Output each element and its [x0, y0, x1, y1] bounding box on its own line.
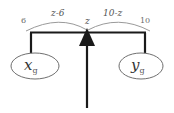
node-label-x: xg — [24, 58, 38, 75]
left-arc-label: z-6 — [51, 9, 65, 18]
diagram-canvas: 6 z-6 z 10-z 10 xg yg — [0, 0, 174, 113]
arrow-head-icon — [79, 28, 95, 46]
right-capacity-label: 10 — [140, 17, 150, 25]
right-arc-label: 10-z — [103, 9, 122, 18]
node-label-y: yg — [131, 58, 145, 75]
node-y-subscript: g — [139, 66, 144, 75]
left-capacity-label: 6 — [21, 17, 26, 25]
node-x-subscript: g — [32, 66, 37, 75]
left-arc — [26, 22, 87, 31]
center-flow-label: z — [85, 17, 90, 26]
